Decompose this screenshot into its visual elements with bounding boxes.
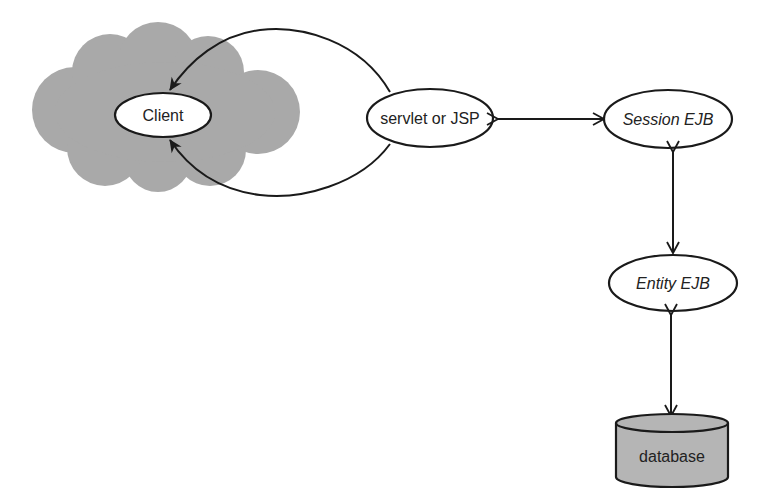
architecture-diagram: Client servlet or JSP Session EJB Entity… bbox=[0, 0, 775, 502]
database-node: database bbox=[616, 414, 728, 487]
session-ejb-label: Session EJB bbox=[623, 111, 714, 128]
client-node: Client bbox=[115, 93, 211, 137]
client-label: Client bbox=[143, 107, 184, 124]
entity-ejb-node: Entity EJB bbox=[609, 255, 737, 311]
session-ejb-node: Session EJB bbox=[604, 90, 732, 148]
entity-ejb-label: Entity EJB bbox=[636, 275, 710, 292]
servlet-node: servlet or JSP bbox=[367, 89, 493, 147]
servlet-label: servlet or JSP bbox=[380, 110, 480, 127]
database-label: database bbox=[639, 448, 705, 465]
